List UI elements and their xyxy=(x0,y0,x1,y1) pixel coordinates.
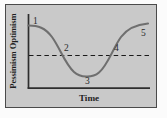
x-axis-label: Time xyxy=(28,93,150,103)
data-point-label-3: 3 xyxy=(85,77,90,87)
data-point-label-4: 4 xyxy=(114,44,119,54)
figure-container: 1 2 3 4 5 Pessimism Optimism Time xyxy=(0,0,167,118)
optimism-curve xyxy=(29,24,149,77)
y-axis-label: Pessimism Optimism xyxy=(8,8,18,94)
data-point-label-1: 1 xyxy=(33,17,38,27)
data-point-label-2: 2 xyxy=(64,44,69,54)
data-point-label-5: 5 xyxy=(141,29,146,39)
